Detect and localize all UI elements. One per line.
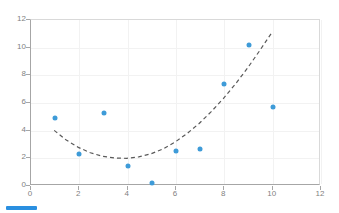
gridline-horizontal: [31, 48, 319, 49]
gridline-vertical: [79, 20, 80, 184]
data-point[interactable]: [174, 149, 179, 154]
chart-legend[interactable]: [6, 203, 42, 213]
gridline-vertical: [321, 20, 322, 184]
gridline-horizontal: [31, 131, 319, 132]
x-tick-mark: [127, 186, 128, 190]
y-tick-mark: [26, 157, 30, 158]
y-tick-mark: [26, 47, 30, 48]
data-point[interactable]: [125, 163, 130, 168]
data-point[interactable]: [198, 147, 203, 152]
x-tick-label: 12: [308, 190, 332, 198]
y-tick-label: 8: [4, 70, 26, 78]
y-tick-mark: [26, 74, 30, 75]
plot-area: [30, 19, 320, 185]
legend-swatch-series-1: [6, 206, 37, 210]
x-tick-label: 6: [163, 190, 187, 198]
y-tick-label: 12: [4, 15, 26, 23]
gridline-vertical: [176, 20, 177, 184]
gridline-horizontal: [31, 103, 319, 104]
x-tick-mark: [78, 186, 79, 190]
gridline-horizontal: [31, 75, 319, 76]
x-tick-label: 8: [211, 190, 235, 198]
y-tick-label: 2: [4, 153, 26, 161]
gridline-horizontal: [31, 158, 319, 159]
data-point[interactable]: [53, 116, 58, 121]
y-tick-mark: [26, 102, 30, 103]
x-tick-mark: [272, 186, 273, 190]
x-tick-mark: [175, 186, 176, 190]
scatter-chart: 024681012024681012: [0, 0, 339, 213]
data-point[interactable]: [270, 105, 275, 110]
gridline-vertical: [273, 20, 274, 184]
x-tick-label: 2: [66, 190, 90, 198]
data-point[interactable]: [77, 152, 82, 157]
data-point[interactable]: [149, 181, 154, 186]
y-tick-label: 6: [4, 98, 26, 106]
y-tick-label: 4: [4, 126, 26, 134]
x-tick-label: 0: [18, 190, 42, 198]
data-point[interactable]: [101, 111, 106, 116]
y-tick-mark: [26, 130, 30, 131]
y-tick-mark: [26, 19, 30, 20]
x-tick-label: 10: [260, 190, 284, 198]
x-tick-mark: [320, 186, 321, 190]
gridline-vertical: [224, 20, 225, 184]
x-tick-label: 4: [115, 190, 139, 198]
y-tick-label: 10: [4, 43, 26, 51]
x-tick-mark: [223, 186, 224, 190]
data-point[interactable]: [222, 82, 227, 87]
x-tick-mark: [30, 186, 31, 190]
data-point[interactable]: [246, 42, 251, 47]
gridline-vertical: [128, 20, 129, 184]
y-tick-label: 0: [4, 181, 26, 189]
